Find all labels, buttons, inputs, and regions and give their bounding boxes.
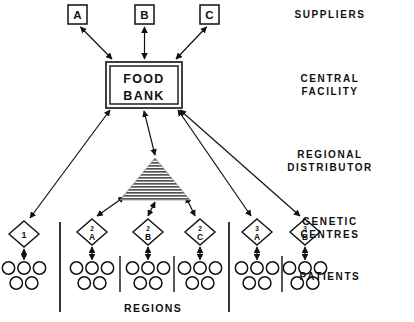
tier-label-line: CENTRAL [270, 72, 390, 85]
patients-1-circle [18, 262, 30, 274]
regions-label: REGIONS [124, 302, 182, 314]
patients-1-circle [33, 262, 45, 274]
tier-label-line: SUPPLIERS [270, 8, 390, 21]
patients-3a-circle [251, 262, 263, 274]
tier-label-line: PATIENTS [270, 270, 390, 283]
tier-label-line: GENETIC [270, 215, 390, 228]
regional-distributor-triangle [120, 158, 190, 200]
arrow-food-bank-gc-1 [30, 110, 110, 218]
patients-1-circle [10, 277, 22, 289]
patients-2c-circle [178, 262, 190, 274]
gc-2b-label: B [145, 232, 151, 242]
patients-2a-circle [86, 262, 98, 274]
diagram-canvas: FOODBANKABC12A2B2C3A3B SUPPLIERSCENTRALF… [0, 0, 414, 322]
gc-1-label: 1 [21, 230, 26, 240]
patients-2a-circle [70, 262, 82, 274]
tier-label-line: CENTRES [270, 228, 390, 241]
patients-3a-circle [243, 277, 255, 289]
patients-2c-circle [186, 277, 198, 289]
tier-label-genetic-centres: GENETICCENTRES [270, 215, 390, 241]
patients-2a-circle [101, 262, 113, 274]
patients-2b-circle [142, 262, 154, 274]
arrow-distributor-gc-2b [148, 202, 155, 216]
patients-2b-circle [157, 262, 169, 274]
supplier-a-label: A [73, 9, 81, 21]
patients-3a-circle [235, 262, 247, 274]
arrow-food-bank-distributor [144, 111, 155, 155]
gc-2c-label: C [197, 232, 203, 242]
patients-2b-circle [150, 277, 162, 289]
food-bank-label-line: BANK [123, 89, 164, 103]
patients-2a-circle [78, 277, 90, 289]
patients-2a-circle [94, 277, 106, 289]
supplier-c-label: C [205, 9, 213, 21]
gc-2a-label: A [89, 232, 95, 242]
arrow-supplier-a-food-bank [81, 27, 113, 59]
tier-label-central-facility: CENTRALFACILITY [270, 72, 390, 98]
tier-label-suppliers: SUPPLIERS [270, 8, 390, 21]
patients-1-circle [2, 262, 14, 274]
arrow-supplier-c-food-bank [176, 27, 207, 59]
tier-label-patients: PATIENTS [270, 270, 390, 283]
tier-label-line: REGIONAL [270, 148, 390, 161]
patients-2c-circle [194, 262, 206, 274]
patients-2c-circle [202, 277, 214, 289]
tier-label-regional-distributor: REGIONALDISTRIBUTOR [270, 148, 390, 174]
food-bank-label-line: FOOD [123, 72, 164, 86]
patients-1-circle [26, 277, 38, 289]
patients-2c-circle [209, 262, 221, 274]
supplier-b-label: B [140, 9, 148, 21]
tier-label-line: FACILITY [270, 85, 390, 98]
tier-label-line: DISTRIBUTOR [270, 161, 390, 174]
patients-2b-circle [126, 262, 138, 274]
gc-3a-label: A [254, 232, 260, 242]
patients-2b-circle [134, 277, 146, 289]
